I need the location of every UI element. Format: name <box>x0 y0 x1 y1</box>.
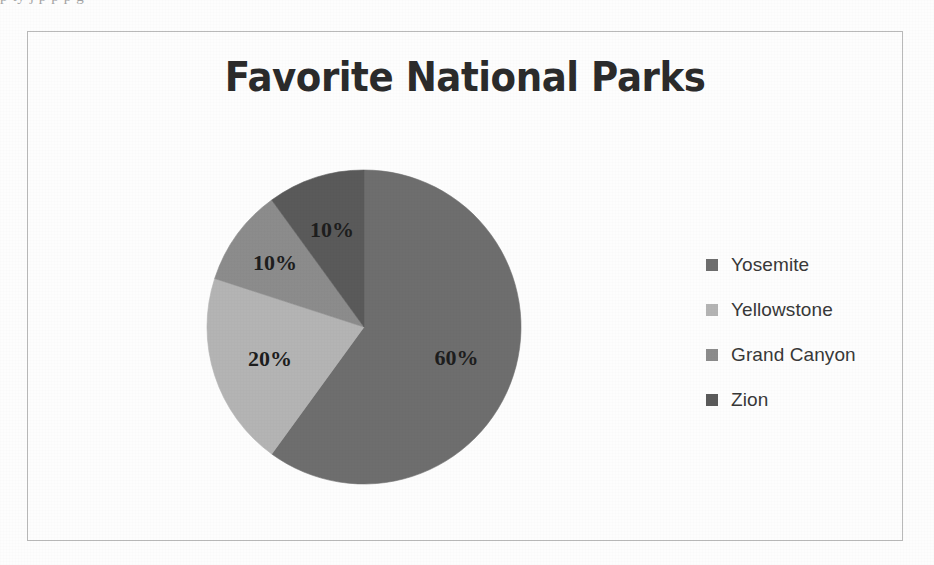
legend-item-label: Grand Canyon <box>731 344 856 366</box>
legend-item-grand-canyon: Grand Canyon <box>706 332 906 377</box>
legend-swatch-icon <box>706 394 718 406</box>
legend-item-label: Zion <box>731 389 768 411</box>
legend-swatch-icon <box>706 304 718 316</box>
legend-swatch-icon <box>706 349 718 361</box>
pie-slice-value-label: 10% <box>253 250 297 275</box>
cut-off-body-text: p ty j p p p g <box>0 0 934 8</box>
pie-chart-svg: 60%20%10%10% <box>206 169 522 485</box>
pie-slice-value-label: 60% <box>435 345 479 370</box>
legend-swatch-icon <box>706 259 718 271</box>
pie-slice-value-label: 10% <box>310 217 354 242</box>
pie-slice-value-label: 20% <box>248 346 292 371</box>
legend-item-yosemite: Yosemite <box>706 242 906 287</box>
chart-legend: YosemiteYellowstoneGrand CanyonZion <box>706 242 906 422</box>
legend-item-label: Yellowstone <box>731 299 833 321</box>
scanned-page: p ty j p p p g Favorite National Parks 6… <box>0 0 934 565</box>
pie-slice-group <box>207 170 521 484</box>
legend-item-zion: Zion <box>706 377 906 422</box>
legend-item-yellowstone: Yellowstone <box>706 287 906 332</box>
chart-frame: Favorite National Parks 60%20%10%10% Yos… <box>27 31 903 541</box>
pie-chart: 60%20%10%10% <box>206 169 522 485</box>
chart-title: Favorite National Parks <box>59 54 872 100</box>
legend-item-label: Yosemite <box>731 254 809 276</box>
